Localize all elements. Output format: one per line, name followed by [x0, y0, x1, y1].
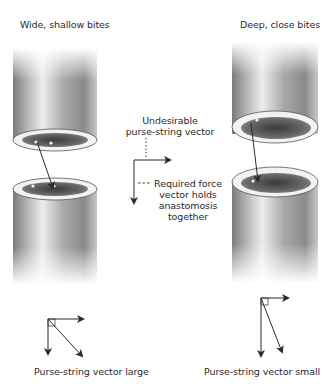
undesirable-line-1: Undesirable — [112, 115, 228, 126]
left-panel-title: Wide, shallow bites — [20, 19, 110, 30]
left-vector-diagram — [48, 319, 83, 356]
undesirable-vector-label: Undesirable purse-string vector — [112, 115, 228, 137]
right-panel-caption: Purse-string vector small — [204, 366, 320, 377]
right-vector-diagram — [261, 298, 288, 356]
left-upper-vessel — [13, 48, 97, 151]
required-line-4: together — [148, 211, 228, 222]
right-lower-vessel — [232, 167, 318, 283]
left-panel-caption: Purse-string vector large — [34, 366, 149, 377]
undesirable-line-2: purse-string vector — [112, 126, 228, 137]
required-line-2: vector holds — [148, 189, 228, 200]
required-line-1: Required force — [148, 178, 228, 189]
required-force-label: Required force vector holds anastomosis … — [148, 178, 228, 222]
left-lower-vessel — [13, 178, 97, 285]
right-panel-title: Deep, close bites — [240, 19, 320, 30]
required-line-3: anastomosis — [148, 200, 228, 211]
right-upper-vessel — [232, 42, 318, 143]
